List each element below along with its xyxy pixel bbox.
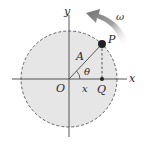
- point-q: [100, 77, 104, 81]
- point-p: [98, 40, 106, 48]
- y-axis-label: y: [63, 5, 71, 18]
- point-p-label: P: [107, 33, 116, 46]
- x-axis-label: x: [129, 72, 136, 85]
- projection-label: x: [82, 83, 88, 94]
- origin-label: O: [56, 82, 65, 95]
- angle-label: θ: [84, 66, 90, 77]
- angular-velocity-label: ω: [116, 11, 124, 22]
- point-q-label: Q: [97, 83, 106, 96]
- reference-circle-diagram: y x O P Q A θ x ω: [0, 0, 151, 148]
- radius-label: A: [75, 50, 84, 63]
